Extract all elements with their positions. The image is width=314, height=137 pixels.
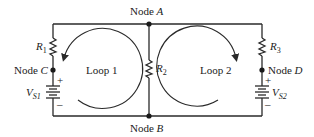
node-b-dot: [146, 113, 151, 118]
node-d-dot: [259, 67, 264, 72]
node-c-dot: [50, 67, 55, 72]
r3-label: R3: [269, 40, 281, 55]
node-d-label: Node D: [268, 64, 303, 76]
vs1-label: VS1: [26, 86, 41, 101]
vs2-label: VS2: [272, 86, 287, 101]
resistor-r1-symbol: [50, 38, 56, 56]
r2-label: R2: [155, 62, 167, 77]
vs2-plus-sign: +: [265, 74, 271, 86]
loop-1-label: Loop 1: [86, 64, 117, 76]
resistor-r2-symbol: [146, 60, 152, 78]
battery-vs2-symbol: [255, 86, 269, 98]
vs1-plus-sign: +: [57, 74, 63, 86]
node-a-label: Node A: [130, 5, 164, 17]
node-c-label: Node C: [14, 64, 49, 76]
r1-label: R1: [35, 40, 47, 55]
resistor-r3-symbol: [259, 38, 265, 56]
circuit-diagram: Node A Node B Node C Node D R1 R2 R3 VS1…: [0, 0, 314, 137]
battery-vs1-symbol: [46, 86, 60, 98]
vs1-minus-sign: –: [56, 98, 63, 110]
loop-2-label: Loop 2: [200, 64, 231, 76]
vs2-minus-sign: –: [264, 98, 271, 110]
node-a-dot: [146, 21, 151, 26]
node-b-label: Node B: [130, 122, 164, 134]
